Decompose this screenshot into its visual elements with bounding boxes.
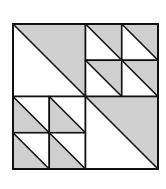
quadrant-bottom-left — [13, 97, 86, 170]
quadrant-bottom-right — [86, 97, 159, 170]
half-square-triangle-cell — [86, 60, 122, 96]
half-square-triangle-cell — [13, 97, 49, 133]
half-square-triangle-cell — [49, 97, 85, 133]
quilt-block-diagram — [0, 0, 166, 189]
half-square-triangle-cell — [86, 97, 159, 170]
half-square-triangle-cell — [13, 133, 49, 169]
quilt-square — [13, 24, 158, 169]
half-square-triangle-cell — [13, 24, 86, 97]
half-square-triangle-cell — [49, 133, 85, 169]
quadrant-top-right — [86, 24, 159, 97]
half-square-triangle-cell — [86, 24, 122, 60]
quadrant-top-left — [13, 24, 86, 97]
half-square-triangle-cell — [122, 60, 158, 96]
half-square-triangle-cell — [122, 24, 158, 60]
